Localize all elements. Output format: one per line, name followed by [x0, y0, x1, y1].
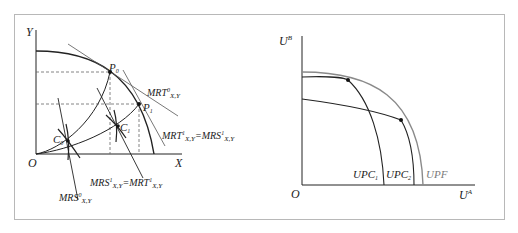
right-origin-label: O — [291, 187, 300, 201]
tangency-point-2 — [399, 118, 403, 122]
tangency-point-1 — [346, 78, 350, 82]
ub-axis-label: UB — [279, 34, 293, 48]
label-upc2: UPC2 — [386, 168, 411, 181]
right-diagram: UB UA O UPC1 UPC2 UPF — [0, 0, 518, 233]
label-upc1: UPC1 — [353, 168, 378, 181]
ua-axis-label: UA — [459, 188, 473, 202]
label-upf: UPF — [426, 168, 448, 180]
